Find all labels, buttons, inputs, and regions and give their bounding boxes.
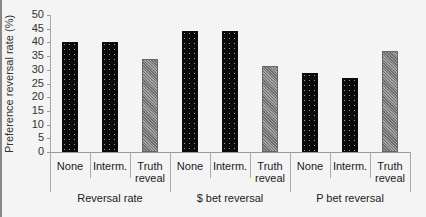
y-tick-label: 30 [24,63,44,75]
group-label: P bet reversal [290,192,410,204]
x-category-label: Interm. [90,160,130,172]
y-tick-label: 40 [24,35,44,47]
bar-interm [222,31,238,152]
category-divider [250,152,251,178]
category-divider [210,152,211,178]
x-category-label: Truthreveal [250,160,290,184]
group-label: $ bet reversal [170,192,290,204]
x-category-label: Interm. [330,160,370,172]
y-tick-label: 15 [24,104,44,116]
y-tick-label: 25 [24,77,44,89]
frame-edge [0,0,2,217]
bar-interm [342,78,358,152]
chart-frame: Preference reversal rate (%) 05101520253… [0,0,426,217]
y-axis-label-text: Preference reversal rate (%) [3,15,15,153]
category-divider [90,152,91,178]
y-tick-label: 5 [24,131,44,143]
y-tick-label: 45 [24,22,44,34]
category-divider [130,152,131,178]
y-tick-label: 50 [24,8,44,20]
x-category-label: None [50,160,90,172]
category-divider [370,152,371,178]
y-tick-label: 20 [24,90,44,102]
bar-none [62,42,78,152]
bar-truth-reveal [262,66,278,152]
group-divider [290,152,291,192]
bar-truth-reveal [142,59,158,152]
x-category-label: None [170,160,210,172]
bar-truth-reveal [382,51,398,152]
bar-none [182,31,198,152]
group-label: Reversal rate [50,192,170,204]
x-category-label: None [290,160,330,172]
bar-none [302,73,318,152]
bar-interm [102,42,118,152]
y-axis-line [50,15,51,153]
x-category-label: Interm. [210,160,250,172]
x-axis-line [50,152,410,153]
y-tick-label: 0 [24,145,44,157]
y-tick-label: 10 [24,118,44,130]
category-divider [330,152,331,178]
group-divider [170,152,171,192]
group-divider [50,152,51,192]
x-category-label: Truthreveal [130,160,170,184]
x-category-label: Truthreveal [370,160,410,184]
group-divider [410,152,411,192]
y-tick-label: 35 [24,49,44,61]
